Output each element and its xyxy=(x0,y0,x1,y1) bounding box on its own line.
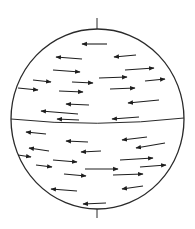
westward-arrow-icon xyxy=(41,111,78,114)
eastward-arrow-icon xyxy=(120,158,153,160)
eastward-arrow-icon xyxy=(53,160,77,162)
globe-diagram xyxy=(0,0,195,229)
globe-circle xyxy=(11,29,184,209)
westward-arrow-icon xyxy=(66,141,88,142)
equator xyxy=(11,118,184,123)
eastward-arrow-icon xyxy=(53,70,80,72)
eastward-arrow-icon xyxy=(145,79,165,81)
eastward-arrow-icon xyxy=(18,155,31,157)
westward-arrow-icon xyxy=(26,132,46,134)
westward-arrow-icon xyxy=(114,55,136,57)
eastward-arrow-icon xyxy=(113,174,143,175)
eastward-arrow-icon xyxy=(140,165,166,167)
eastward-arrow-icon xyxy=(36,165,52,167)
westward-arrow-icon xyxy=(81,151,101,152)
westward-arrow-icon xyxy=(66,104,89,105)
westward-arrow-icon xyxy=(29,148,49,151)
eastward-arrow-icon xyxy=(59,91,83,92)
eastward-arrow-icon xyxy=(110,88,135,89)
eastward-arrow-icon xyxy=(125,68,154,70)
westward-arrow-icon xyxy=(112,117,139,119)
equator-line xyxy=(11,118,184,123)
eastward-arrow-icon xyxy=(99,77,127,78)
westward-arrow-icon xyxy=(83,203,106,204)
eastward-arrow-icon xyxy=(64,174,86,176)
eastward-arrow-icon xyxy=(18,88,38,90)
westward-arrow-icon xyxy=(57,119,79,120)
westward-arrow-icon xyxy=(122,137,147,140)
westward-arrow-icon xyxy=(136,143,165,148)
westward-arrow-icon xyxy=(56,57,82,59)
westward-arrow-icon xyxy=(51,189,77,191)
westward-arrow-icon xyxy=(128,100,159,103)
globe-outline xyxy=(11,29,184,209)
eastward-arrow-icon xyxy=(33,80,51,82)
eastward-arrow-icon xyxy=(72,82,93,83)
westward-arrow-icon xyxy=(122,186,143,189)
wind-arrows xyxy=(18,44,166,204)
globe-figure xyxy=(0,0,195,229)
